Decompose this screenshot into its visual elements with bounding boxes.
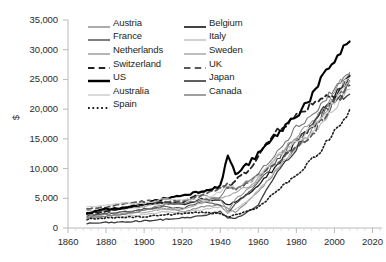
legend-swatch-icon [184,72,206,82]
y-tick-label: 10,000 [14,163,58,174]
chart-legend: AustriaFranceNetherlandsSwitzerlandUSAus… [88,16,278,111]
x-tick-label: 1900 [124,236,164,247]
line-chart: $ 05,00010,00015,00020,00025,00030,00035… [0,0,386,262]
legend-label: Netherlands [113,45,163,55]
legend-swatch-icon [184,59,206,69]
y-axis-ticks [63,20,68,228]
y-tick-label: 5,000 [14,192,58,203]
legend-swatch-icon [184,31,206,41]
legend-item-japan[interactable]: Japan [184,70,278,84]
y-tick-label: 0 [14,222,58,233]
legend-item-belgium[interactable]: Belgium [184,16,278,30]
x-tick-label: 1940 [200,236,240,247]
legend-label: Italy [209,31,226,41]
y-tick-label: 30,000 [14,44,58,55]
legend-label: Switzerland [113,59,161,69]
legend-item-australia[interactable]: Australia [88,84,184,98]
x-tick-label: 1860 [48,236,88,247]
legend-swatch-icon [88,72,110,82]
legend-label: Australia [113,86,149,96]
legend-label: Austria [113,18,142,28]
x-tick-label: 1920 [162,236,202,247]
legend-item-switzerland[interactable]: Switzerland [88,57,184,71]
legend-label: Belgium [209,18,243,28]
x-tick-label: 2000 [314,236,354,247]
legend-swatch-icon [88,59,110,69]
legend-label: Spain [113,99,137,109]
legend-label: Sweden [209,45,243,55]
legend-item-austria[interactable]: Austria [88,16,184,30]
legend-swatch-icon [88,99,110,109]
y-tick-label: 35,000 [14,14,58,25]
legend-swatch-icon [184,45,206,55]
y-tick-label: 15,000 [14,133,58,144]
legend-swatch-icon [184,86,206,96]
legend-item-uk[interactable]: UK [184,57,278,71]
legend-label: Canada [209,86,242,96]
legend-item-sweden[interactable]: Sweden [184,43,278,57]
x-tick-label: 2020 [352,236,386,247]
legend-item-france[interactable]: France [88,30,184,44]
legend-label: France [113,31,142,41]
legend-label: US [113,72,126,82]
legend-swatch-icon [184,18,206,28]
legend-swatch-icon [88,31,110,41]
legend-swatch-icon [88,18,110,28]
x-tick-label: 1880 [86,236,126,247]
legend-item-netherlands[interactable]: Netherlands [88,43,184,57]
x-tick-label: 1960 [238,236,278,247]
legend-label: UK [209,59,222,69]
legend-item-spain[interactable]: Spain [88,98,184,112]
x-tick-label: 1980 [276,236,316,247]
legend-item-italy[interactable]: Italy [184,30,278,44]
legend-swatch-icon [88,45,110,55]
legend-label: Japan [209,72,234,82]
y-tick-label: 20,000 [14,103,58,114]
legend-item-canada[interactable]: Canada [184,84,278,98]
legend-swatch-icon [88,86,110,96]
legend-item-us[interactable]: US [88,70,184,84]
y-tick-label: 25,000 [14,73,58,84]
